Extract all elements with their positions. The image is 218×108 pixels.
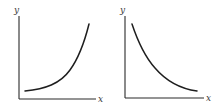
left-growth-curve xyxy=(25,24,89,91)
left-chart: y x xyxy=(13,5,103,104)
right-x-axis-label: x xyxy=(206,93,211,103)
left-x-axis-label: x xyxy=(98,94,103,104)
right-decay-curve xyxy=(132,24,197,91)
figure-canvas: y x y x xyxy=(0,0,218,108)
right-chart: y x xyxy=(119,5,211,103)
left-y-axis-label: y xyxy=(13,5,20,15)
right-y-axis-label: y xyxy=(119,5,126,15)
